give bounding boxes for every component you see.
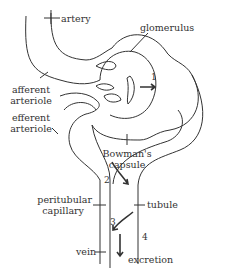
glomerulus-loop-1 [96, 62, 116, 70]
step-2: 2 [104, 175, 110, 185]
step-3: 3 [110, 217, 116, 227]
diagram-drawing [0, 0, 230, 279]
efferent-arteriole-outer [60, 93, 100, 264]
label-afferent-arteriole: arteriole [10, 95, 52, 106]
label-excretion: excretion [128, 254, 173, 265]
label-vein: vein [76, 246, 96, 257]
label-peritubular: peritubular [30, 194, 92, 205]
glomerulus-loop-3 [104, 94, 121, 102]
artery-tick [44, 13, 60, 24]
arrow-3 [113, 212, 133, 230]
step-1: 1 [151, 72, 157, 82]
efferent-arteriole-inner [64, 103, 96, 111]
label-efferent-arteriole: arteriole [10, 123, 52, 134]
nephron-diagram: artery glomerulus afferent arteriole eff… [0, 0, 230, 279]
afferent-arteriole-outer [26, 16, 100, 84]
arrow-1 [140, 84, 155, 90]
label-capillary: capillary [30, 205, 84, 216]
glomerulus-loop-4 [96, 84, 114, 90]
glomerulus-loop-2 [127, 76, 134, 104]
efferent-leader [52, 128, 58, 134]
arrow-4 [117, 234, 123, 256]
label-artery: artery [61, 13, 91, 24]
label-capsule: capsule [97, 159, 157, 170]
label-tubule: tubule [147, 199, 178, 210]
label-afferent: afferent [10, 84, 52, 95]
step-4: 4 [142, 232, 148, 242]
label-efferent: efferent [10, 112, 52, 123]
tubule-inner [113, 110, 182, 184]
label-bowmans: Bowman's [97, 148, 157, 159]
label-glomerulus: glomerulus [140, 22, 194, 33]
glomerulus-leader [130, 33, 148, 52]
